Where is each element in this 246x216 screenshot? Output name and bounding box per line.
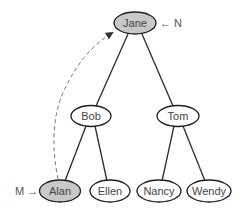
node-label-jane: Jane xyxy=(123,17,147,29)
node-label-ellen: Ellen xyxy=(98,185,122,197)
node-label-tom: Tom xyxy=(168,110,189,122)
node-wendy: Wendy xyxy=(187,180,231,202)
node-label-bob: Bob xyxy=(81,110,101,122)
edge-tom-nancy xyxy=(162,126,174,181)
pointer-n-label: ← N xyxy=(160,17,182,29)
edge-tom-wendy xyxy=(183,126,205,181)
edge-jane-tom xyxy=(142,34,173,106)
tree-diagram: Jane Bob Tom Alan Ellen Nancy Wendy ← N … xyxy=(0,0,246,216)
node-label-nancy: Nancy xyxy=(143,185,175,197)
node-alan: Alan xyxy=(40,180,81,202)
node-nancy: Nancy xyxy=(137,180,181,202)
node-jane: Jane xyxy=(114,12,156,34)
pointer-m-label: M → xyxy=(15,185,38,197)
node-ellen: Ellen xyxy=(90,180,130,202)
node-bob: Bob xyxy=(71,106,111,127)
node-label-wendy: Wendy xyxy=(192,185,227,197)
node-label-alan: Alan xyxy=(49,185,71,197)
node-tom: Tom xyxy=(157,106,199,127)
edge-bob-ellen xyxy=(95,126,107,181)
edge-jane-bob xyxy=(96,34,128,106)
edge-bob-alan xyxy=(65,126,86,181)
